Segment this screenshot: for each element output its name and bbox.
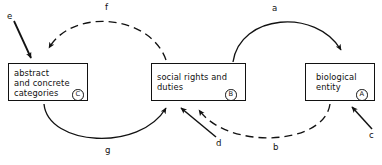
diagram-canvas: abstract and concrete categories C socia… xyxy=(0,0,382,165)
node-tag-c: C xyxy=(72,88,84,101)
edge-label-e: e xyxy=(7,12,12,21)
edge-e-path xyxy=(14,21,31,58)
edge-label-f: f xyxy=(105,3,108,12)
edge-label-g: g xyxy=(105,146,110,155)
edge-b-path xyxy=(199,104,330,138)
edge-f-path xyxy=(49,21,166,60)
edge-c-path xyxy=(352,107,372,129)
edge-a-path xyxy=(233,22,341,62)
node-tag-a: A xyxy=(356,88,368,101)
node-biological-entity[interactable]: biological entity A xyxy=(305,63,375,101)
node-social-rights-and-duties[interactable]: social rights and duties B xyxy=(151,63,246,101)
edge-label-d: d xyxy=(216,139,221,148)
node-abstract-and-concrete-categories[interactable]: abstract and concrete categories C xyxy=(8,63,88,101)
edge-d-path xyxy=(181,108,216,137)
edge-label-b: b xyxy=(273,143,278,152)
edge-label-c: c xyxy=(369,131,374,140)
node-tag-b: B xyxy=(225,88,237,101)
edge-label-a: a xyxy=(272,4,277,13)
edge-g-path xyxy=(44,104,166,138)
